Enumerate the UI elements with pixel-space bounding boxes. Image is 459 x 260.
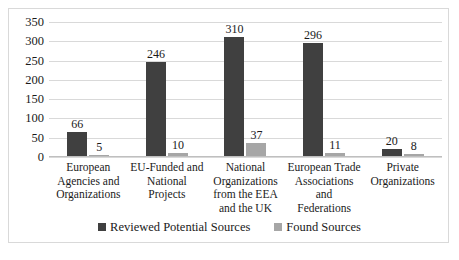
- bar-groups: 665246103103729611208: [49, 22, 442, 157]
- bar-wrapper: 20: [382, 22, 402, 157]
- legend-label: Reviewed Potential Sources: [110, 221, 250, 234]
- chart-legend: Reviewed Potential SourcesFound Sources: [9, 221, 450, 234]
- category-label-line: Organizations: [207, 175, 284, 189]
- bar-value-label: 310: [225, 23, 243, 35]
- bar-wrapper: 37: [246, 22, 266, 157]
- y-axis-tick-label: 350: [25, 16, 44, 29]
- y-axis-tick-label: 150: [25, 93, 44, 106]
- category-label-line: EU-Funded and: [129, 161, 206, 175]
- category-label: NationalOrganizationsfrom the EEAand the…: [206, 161, 285, 215]
- bar-wrapper: 5: [89, 22, 109, 157]
- gridline-0: 0: [49, 157, 442, 158]
- bar-value-label: 296: [304, 29, 322, 41]
- bar[interactable]: [303, 43, 323, 157]
- category-label: European TradeAssociations andFederation…: [285, 161, 364, 215]
- bar-wrapper: 296: [303, 22, 323, 157]
- y-axis-tick-label: 50: [32, 131, 45, 144]
- category-label-line: from the EEA: [207, 188, 284, 202]
- bar[interactable]: [224, 37, 244, 157]
- bar[interactable]: [246, 143, 266, 157]
- bar-value-label: 10: [172, 139, 184, 151]
- bar-value-label: 11: [329, 139, 341, 151]
- y-axis-tick-label: 250: [25, 54, 44, 67]
- bar-wrapper: 8: [404, 22, 424, 157]
- category-label: EuropeanAgencies andOrganizations: [49, 161, 128, 215]
- y-axis-tick-label: 0: [38, 151, 44, 164]
- legend-item[interactable]: Found Sources: [274, 221, 361, 234]
- category-label: EU-Funded andNationalProjects: [128, 161, 207, 215]
- category-label-line: National: [129, 175, 206, 189]
- bar-group: 24610: [128, 22, 207, 157]
- category-axis-labels: EuropeanAgencies andOrganizationsEU-Fund…: [49, 161, 442, 215]
- legend-swatch-dark: [98, 223, 106, 231]
- bar-value-label: 5: [96, 141, 102, 153]
- bar-value-label: 246: [147, 48, 165, 60]
- bar-value-label: 37: [250, 129, 262, 141]
- category-label-line: European Trade: [286, 161, 363, 175]
- legend-item[interactable]: Reviewed Potential Sources: [98, 221, 250, 234]
- category-label-line: Projects: [129, 188, 206, 202]
- plot-area: 350300250200150100500 665246103103729611…: [49, 22, 442, 157]
- bar-group: 31037: [206, 22, 285, 157]
- category-label: PrivateOrganizations: [363, 161, 442, 215]
- bar-wrapper: 11: [325, 22, 345, 157]
- category-label-line: Organizations: [50, 188, 127, 202]
- chart-frame: 350300250200150100500 665246103103729611…: [8, 8, 449, 243]
- bar-wrapper: 66: [67, 22, 87, 157]
- bar-value-label: 8: [411, 140, 417, 152]
- y-axis-tick-label: 200: [25, 74, 44, 87]
- y-axis-tick-label: 100: [25, 112, 44, 125]
- axis-baseline: [49, 156, 442, 157]
- bar-wrapper: 10: [168, 22, 188, 157]
- y-axis-tick-label: 300: [25, 35, 44, 48]
- legend-swatch-light: [274, 223, 282, 231]
- category-label-line: European: [50, 161, 127, 175]
- bar-wrapper: 310: [224, 22, 244, 157]
- bar[interactable]: [67, 132, 87, 157]
- bar-group: 665: [49, 22, 128, 157]
- category-label-line: Federations: [286, 202, 363, 216]
- bar[interactable]: [146, 62, 166, 157]
- category-label-line: Associations and: [286, 175, 363, 202]
- bar-value-label: 66: [71, 118, 83, 130]
- category-label-line: National: [207, 161, 284, 175]
- category-label-line: Agencies and: [50, 175, 127, 189]
- bar-value-label: 20: [386, 135, 398, 147]
- category-label-line: and the UK: [207, 202, 284, 216]
- bar-group: 29611: [285, 22, 364, 157]
- category-label-line: Organizations: [364, 175, 441, 189]
- category-label-line: Private: [364, 161, 441, 175]
- bar-group: 208: [363, 22, 442, 157]
- legend-label: Found Sources: [286, 221, 361, 234]
- bar-wrapper: 246: [146, 22, 166, 157]
